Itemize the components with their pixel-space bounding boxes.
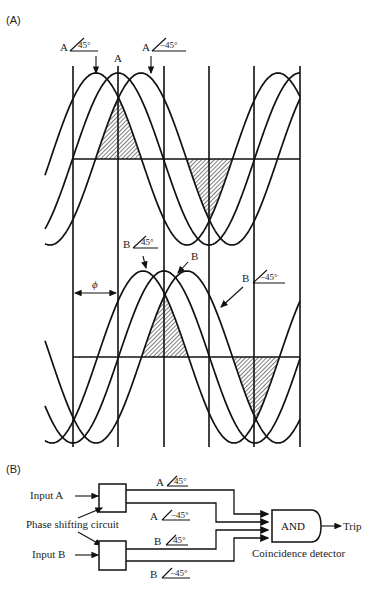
svg-text:−45°: −45°: [171, 510, 189, 520]
svg-text:Phase shifting circuit: Phase shifting circuit: [26, 518, 119, 530]
svg-text:−45°: −45°: [260, 272, 278, 282]
signal-label-b-plus45: B 45°: [154, 535, 188, 547]
svg-text:Input B: Input B: [32, 548, 65, 560]
and-gate-coincidence-detector: AND Coincidence detector Trip: [252, 510, 362, 559]
panel-b-label: (B): [6, 463, 21, 475]
input-a: Input A: [30, 489, 98, 501]
svg-text:45°: 45°: [173, 535, 186, 545]
svg-text:45°: 45°: [78, 40, 91, 50]
svg-text:A: A: [142, 41, 150, 53]
svg-text:B: B: [242, 272, 249, 284]
signal-label-a-minus45: A −45°: [150, 510, 190, 522]
input-b: Input B: [32, 548, 98, 560]
svg-text:−45°: −45°: [160, 40, 178, 50]
svg-text:ϕ: ϕ: [92, 278, 98, 290]
and-gate-label: AND: [281, 520, 305, 532]
label-a-reference: A: [114, 52, 122, 64]
phase-shift-box-a: [99, 484, 126, 512]
trip-output-label: Trip: [343, 520, 362, 532]
signal-label-a-plus45: A 45°: [156, 476, 188, 488]
label-a-plus45: A 45°: [60, 38, 98, 73]
protection-relay-diagram: (A) A 45° A A −45° B 45° B B −45° ϕ: [0, 0, 382, 606]
svg-text:B: B: [154, 535, 161, 547]
svg-text:−45°: −45°: [170, 568, 188, 578]
phase-shifting-circuit-label: Phase shifting circuit: [26, 508, 119, 545]
label-b-reference: B: [178, 250, 198, 273]
svg-text:Input A: Input A: [30, 489, 63, 501]
label-b-plus45: B 45°: [123, 236, 158, 268]
svg-text:A: A: [114, 52, 122, 64]
svg-text:B: B: [123, 238, 130, 250]
coincidence-detector-caption: Coincidence detector: [252, 547, 345, 559]
svg-text:A: A: [156, 476, 164, 488]
svg-text:A: A: [60, 41, 68, 53]
label-b-minus45: B −45°: [221, 270, 285, 307]
svg-text:45°: 45°: [141, 237, 154, 247]
svg-text:B: B: [150, 568, 157, 580]
svg-text:B: B: [191, 250, 198, 262]
phase-difference-phi: ϕ: [75, 278, 116, 293]
phase-shift-box-b: [99, 541, 126, 570]
svg-text:45°: 45°: [174, 476, 187, 486]
hatched-coincidence-regions: [72, 99, 301, 420]
signal-label-b-minus45: B −45°: [150, 568, 190, 580]
signal-wires: [126, 490, 268, 561]
svg-text:A: A: [150, 510, 158, 522]
panel-a-label: (A): [6, 14, 21, 26]
